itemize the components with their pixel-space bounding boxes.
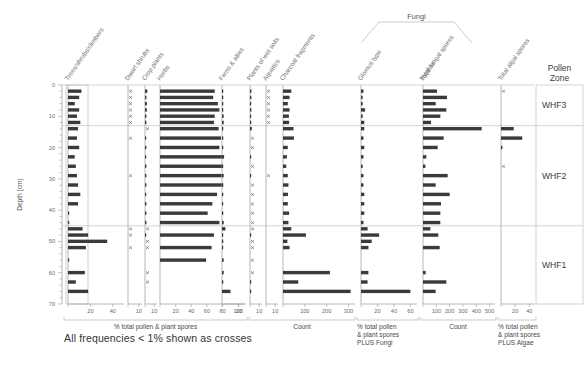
x-tick-label: 40 <box>526 308 532 314</box>
bar-Crop plants <box>145 102 147 105</box>
bar-Glomus type <box>361 271 368 274</box>
bar-Herbs <box>160 155 224 158</box>
bar-Herbs <box>160 221 219 224</box>
bar-Charcoal fragments <box>283 280 298 283</box>
bar-Plants of wet soils <box>250 233 251 236</box>
bar-Ferns & allies <box>222 174 224 177</box>
x-tick-label: 20 <box>87 308 93 314</box>
bar-Total fungal spores <box>423 211 440 214</box>
bar-Crop plants <box>145 165 146 168</box>
bar-Trees/shrubs/climbers <box>68 211 69 214</box>
x-tick-label: 40 <box>188 308 194 314</box>
bar-Trees/shrubs/climbers <box>68 227 83 230</box>
bar-Crop plants <box>145 202 146 205</box>
bar-Total algal spores <box>501 127 514 130</box>
bar-Plants of wet soils <box>250 96 251 99</box>
bar-Crop plants <box>145 174 146 177</box>
curve-title-Hyphae: Hyphae <box>418 59 437 82</box>
bar-Glomus type <box>361 202 364 205</box>
bar-Herbs <box>160 174 222 177</box>
bar-Glomus type <box>361 240 372 243</box>
bar-Total fungal spores <box>423 271 426 274</box>
curve-title-Herbs: Herbs <box>155 64 171 82</box>
bar-Crop plants <box>145 114 146 117</box>
bar-Charcoal fragments <box>283 114 289 117</box>
bar-Total fungal spores <box>423 96 447 99</box>
bar-Trees/shrubs/climbers <box>68 233 88 236</box>
axis-group-label: Count <box>449 323 467 330</box>
bar-Trees/shrubs/climbers <box>68 193 80 196</box>
bar-Crop plants <box>145 155 146 158</box>
depth-tick-label: 40 <box>49 207 55 213</box>
bar-Trees/shrubs/climbers <box>68 114 77 117</box>
bar-Ferns & allies <box>222 136 223 139</box>
bar-Plants of wet soils <box>250 290 251 293</box>
x-tick-label: 300 <box>344 308 353 314</box>
bar-Herbs <box>160 96 213 99</box>
bar-Plants of wet soils <box>250 121 251 124</box>
depth-tick-label: 0 <box>52 82 55 88</box>
curve-title-Ferns & allies: Ferns & allies <box>217 46 245 82</box>
bar-Charcoal fragments <box>283 271 330 274</box>
bar-Trees/shrubs/climbers <box>68 271 85 274</box>
bar-Crop plants <box>145 121 146 124</box>
bar-Total fungal spores <box>423 280 446 283</box>
bar-Herbs <box>160 233 214 236</box>
bar-Herbs <box>160 114 215 117</box>
bar-Total algal spores <box>501 146 502 149</box>
diagram-canvas: 010203040506070Depth (cm)PollenZoneWHF3W… <box>0 0 587 365</box>
bar-Glomus type <box>361 114 363 117</box>
depth-tick-label: 30 <box>49 176 55 182</box>
depth-axis-label: Depth (cm) <box>16 178 24 211</box>
curve-title-Total algal spores: Total algal spores <box>496 37 531 82</box>
bar-Total fungal spores <box>423 233 438 236</box>
fungi-group-label: Fungi <box>407 12 426 21</box>
bar-Total fungal spores <box>423 146 438 149</box>
bar-Trees/shrubs/climbers <box>68 96 79 99</box>
bar-Trees/shrubs/climbers <box>68 146 79 149</box>
bar-Ferns & allies <box>222 271 224 274</box>
bar-Charcoal fragments <box>283 96 290 99</box>
bar-Crop plants <box>145 211 146 214</box>
zone-label-WHF2: WHF2 <box>542 171 567 181</box>
bar-Crop plants <box>145 96 146 99</box>
x-tick-label: 20 <box>236 308 242 314</box>
bar-Ferns & allies <box>222 155 223 158</box>
x-tick-label: 80 <box>219 308 225 314</box>
bar-Trees/shrubs/climbers <box>68 127 78 130</box>
bar-Charcoal fragments <box>283 233 306 236</box>
bar-Charcoal fragments <box>283 202 288 205</box>
depth-tick-label: 20 <box>49 145 55 151</box>
bar-Glomus type <box>361 193 364 196</box>
bar-Plants of wet soils <box>250 127 252 130</box>
bar-Total fungal spores <box>423 165 425 168</box>
bar-Trees/shrubs/climbers <box>68 258 69 261</box>
depth-tick-label: 50 <box>49 238 55 244</box>
bar-Glomus type <box>361 246 368 249</box>
x-tick-label: 10 <box>151 308 157 314</box>
axis-group-label: % total pollen <box>357 323 397 331</box>
bar-Charcoal fragments <box>283 290 351 293</box>
bar-Total fungal spores <box>423 136 444 139</box>
bar-Trees/shrubs/climbers <box>68 174 77 177</box>
bar-Herbs <box>160 108 219 111</box>
x-tick-label: 20 <box>374 308 380 314</box>
curve-title-Trees/shrubs/climbers: Trees/shrubs/climbers <box>63 26 105 81</box>
x-tick-label: 200 <box>322 308 331 314</box>
bar-Plants of wet soils <box>250 280 251 283</box>
bar-Total fungal spores <box>423 227 430 230</box>
zone-header-line1: Pollen <box>548 63 572 73</box>
bar-Herbs <box>160 246 212 249</box>
bar-Trees/shrubs/climbers <box>68 102 75 105</box>
bar-Ferns & allies <box>222 211 223 214</box>
x-tick-label: 10 <box>136 308 142 314</box>
footnote-text: All frequencies < 1% shown as crosses <box>64 332 252 344</box>
bar-Ferns & allies <box>222 227 225 230</box>
bar-Ferns & allies <box>222 246 223 249</box>
bar-Total fungal spores <box>423 246 440 249</box>
bar-Total fungal spores <box>423 108 446 111</box>
bar-Total fungal spores <box>423 89 437 92</box>
bar-Herbs <box>160 211 208 214</box>
bar-Charcoal fragments <box>283 246 290 249</box>
bar-Glomus type <box>361 102 363 105</box>
